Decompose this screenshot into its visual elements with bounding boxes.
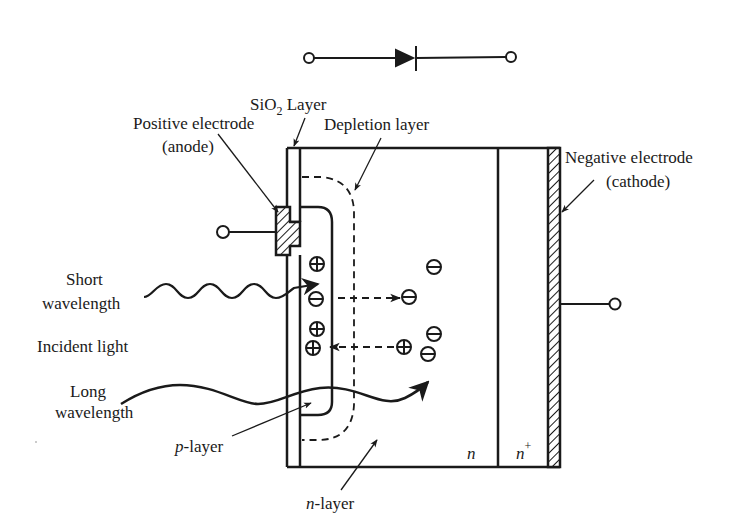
n-layer-label: n-layer	[306, 494, 354, 513]
electron-charge	[402, 290, 416, 304]
charges	[306, 257, 441, 361]
hole-charge	[310, 322, 324, 336]
electron-charge	[421, 347, 435, 361]
photodiode-diagram: SiO2 Layer Positive electrode (anode) De…	[0, 0, 754, 532]
anode-terminal	[217, 226, 276, 238]
anode-electrode	[276, 207, 300, 255]
p-layer-region	[300, 207, 332, 415]
electron-charge	[427, 260, 441, 274]
anode-label-line1: Positive electrode	[133, 114, 254, 133]
depletion-layer-label: Depletion layer	[324, 115, 430, 134]
device-body	[287, 148, 560, 467]
cathode-label-line2: (cathode)	[606, 172, 670, 191]
hole-charge	[397, 340, 411, 354]
diode-symbol	[304, 46, 516, 71]
short-wavelength-label-1: Short	[66, 270, 103, 289]
cathode-electrode	[548, 148, 560, 467]
anode-label-line2: (anode)	[162, 137, 214, 156]
n-region-label: n	[467, 444, 476, 463]
long-wavelength-wave	[121, 382, 428, 404]
incident-light-label: Incident light	[37, 337, 128, 356]
nplus-region-label: n+	[516, 439, 532, 463]
hole-charge	[306, 341, 320, 355]
long-wavelength-label-2: wavelength	[55, 403, 134, 422]
short-wavelength-label-2: wavelength	[42, 294, 121, 313]
electron-charge	[309, 292, 323, 306]
cathode-terminal	[560, 299, 621, 310]
electron-charge	[427, 327, 441, 341]
hole-charge	[310, 257, 324, 271]
long-wavelength-label-1: Long	[70, 382, 106, 401]
sio2-layer-label: SiO2 Layer	[250, 95, 327, 118]
cathode-label-line1: Negative electrode	[565, 148, 693, 167]
short-wavelength-wave	[144, 284, 318, 298]
p-layer-label: p-layer	[174, 437, 223, 456]
depletion-boundary	[302, 177, 354, 440]
